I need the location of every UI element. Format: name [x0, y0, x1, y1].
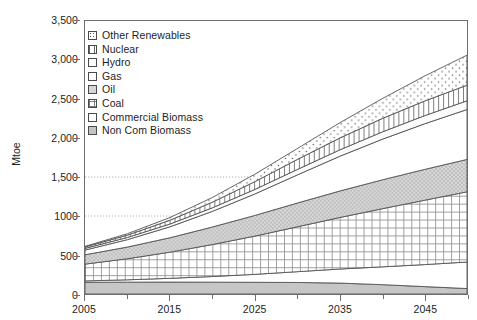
chart-legend: Other RenewablesNuclearHydroGasOilCoalCo…: [88, 30, 203, 136]
legend-item-label: Coal: [102, 98, 124, 109]
legend-item[interactable]: Hydro: [88, 57, 203, 68]
x-tick-label: 2015: [157, 303, 181, 315]
legend-swatch-icon: [88, 31, 97, 40]
x-tick-label: 2025: [243, 303, 267, 315]
legend-swatch-icon: [88, 85, 97, 94]
x-tick-label: 2035: [328, 303, 352, 315]
x-tick-mark: [340, 295, 341, 301]
legend-item-label: Oil: [102, 84, 115, 95]
legend-swatch-icon: [88, 126, 97, 135]
legend-item-label: Other Renewables: [102, 30, 191, 41]
x-tick-mark: [127, 295, 128, 299]
legend-item-label: Gas: [102, 71, 122, 82]
legend-item-label: Commercial Biomass: [102, 112, 203, 123]
legend-item[interactable]: Oil: [88, 84, 203, 95]
legend-swatch-icon: [88, 72, 97, 81]
legend-item[interactable]: Coal: [88, 98, 203, 109]
x-tick-mark: [84, 295, 85, 301]
legend-item[interactable]: Non Com Biomass: [88, 125, 203, 136]
legend-swatch-icon: [88, 58, 97, 67]
legend-item[interactable]: Commercial Biomass: [88, 112, 203, 123]
legend-swatch-icon: [88, 113, 97, 122]
x-tick-mark: [255, 295, 256, 301]
x-tick-mark: [212, 295, 213, 299]
legend-item[interactable]: Other Renewables: [88, 30, 203, 41]
legend-swatch-icon: [88, 45, 97, 54]
legend-item[interactable]: Gas: [88, 71, 203, 82]
chart-container: Mtoe 050010001,5002,0002,5003,0003,500 2…: [0, 0, 477, 320]
x-tick-mark: [169, 295, 170, 301]
x-tick-mark: [425, 295, 426, 301]
legend-swatch-icon: [88, 99, 97, 108]
legend-item-label: Non Com Biomass: [102, 125, 191, 136]
x-tick-label: 2005: [72, 303, 96, 315]
legend-item[interactable]: Nuclear: [88, 44, 203, 55]
x-tick-mark: [297, 295, 298, 299]
x-tick-mark: [468, 295, 469, 299]
x-tick-label: 2045: [413, 303, 437, 315]
legend-item-label: Nuclear: [102, 44, 139, 55]
x-tick-mark: [383, 295, 384, 299]
legend-item-label: Hydro: [102, 57, 131, 68]
